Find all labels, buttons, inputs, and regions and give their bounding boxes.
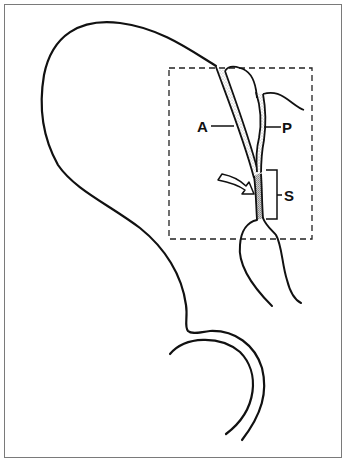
label-s: S [284, 187, 294, 204]
diagram-canvas: A P S [0, 0, 345, 465]
label-p: P [282, 119, 292, 136]
posterior-top-curve [263, 93, 304, 110]
anatomy-figure: A P S [0, 0, 345, 465]
lower-inner-arc [170, 340, 253, 434]
anterior-band-outer [216, 67, 254, 178]
curved-arrow-icon [218, 174, 254, 194]
lower-structure-left [240, 220, 272, 306]
lower-structure-right [263, 218, 301, 303]
inset-dashed-box [169, 68, 312, 239]
bracket-s [266, 170, 282, 219]
label-a: A [197, 118, 208, 135]
